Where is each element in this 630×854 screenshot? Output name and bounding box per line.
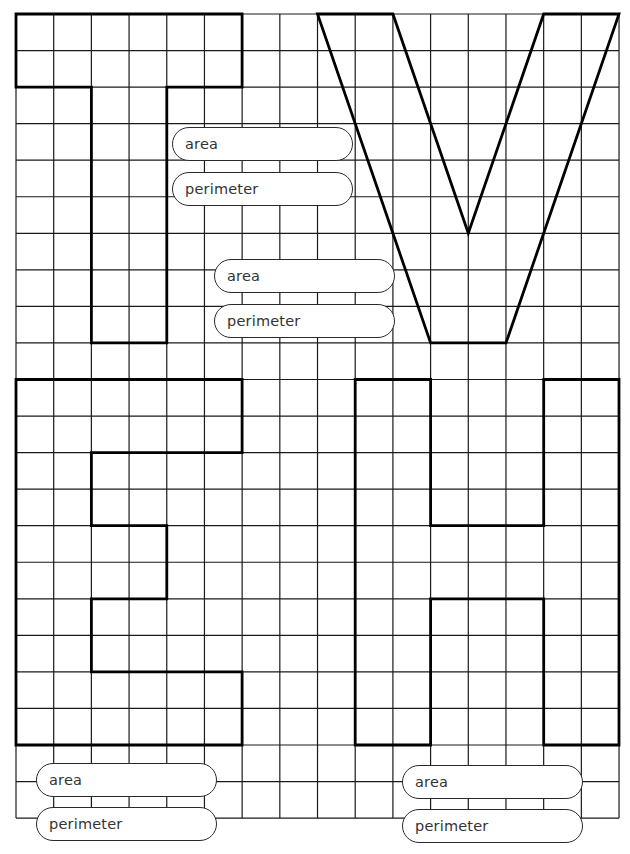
e-area-field[interactable]: area xyxy=(36,763,217,797)
t-perimeter-label: perimeter xyxy=(185,181,259,197)
v-perimeter-field[interactable]: perimeter xyxy=(214,304,395,338)
t-area-field[interactable]: area xyxy=(172,127,353,161)
v-area-label: area xyxy=(227,268,260,284)
h-area-label: area xyxy=(415,774,448,790)
h-perimeter-label: perimeter xyxy=(415,818,489,834)
v-perimeter-label: perimeter xyxy=(227,313,301,329)
h-perimeter-field[interactable]: perimeter xyxy=(402,809,583,843)
e-perimeter-field[interactable]: perimeter xyxy=(36,807,217,841)
grid-worksheet: area perimeter area perimeter area perim… xyxy=(0,0,630,854)
e-area-label: area xyxy=(49,772,82,788)
h-area-field[interactable]: area xyxy=(402,765,583,799)
t-area-label: area xyxy=(185,136,218,152)
t-perimeter-field[interactable]: perimeter xyxy=(172,172,353,206)
v-area-field[interactable]: area xyxy=(214,259,395,293)
e-perimeter-label: perimeter xyxy=(49,816,123,832)
